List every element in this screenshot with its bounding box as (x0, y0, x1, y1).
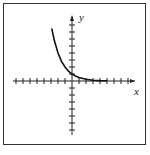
y-axis-label: y (79, 11, 84, 23)
x-axis-label: x (134, 85, 139, 97)
curve (52, 29, 107, 81)
chart-plot (0, 0, 150, 155)
x-axis-arrow-icon (130, 79, 135, 83)
y-axis-arrow-icon (70, 15, 74, 21)
